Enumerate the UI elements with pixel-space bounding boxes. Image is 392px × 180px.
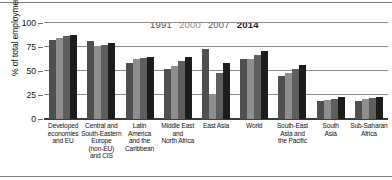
plot-area <box>44 23 388 119</box>
y-tick-mark-100 <box>38 23 43 24</box>
category-label-line: Africa <box>347 130 391 138</box>
bar-2000 <box>324 100 331 119</box>
bar-2000 <box>209 95 216 119</box>
category-label-line: North Africa <box>156 137 200 145</box>
y-tick-mark-25 <box>38 95 43 96</box>
bar-2007 <box>63 36 70 119</box>
bar-chart: % of total employment 1991200020072014 0… <box>0 0 392 180</box>
bar-1991 <box>49 40 56 119</box>
bar-1991 <box>202 49 209 119</box>
y-tick-label-0: 0 <box>12 115 36 123</box>
bar-2014 <box>299 65 306 119</box>
bar-2014 <box>147 57 154 119</box>
category-label-line: the Pacific <box>270 137 314 145</box>
bar-2007 <box>101 45 108 119</box>
bar-group <box>159 23 197 119</box>
bar-group <box>44 23 82 119</box>
category-label-line: Caribbean <box>117 145 161 153</box>
bar-2000 <box>133 59 140 119</box>
bar-1991 <box>164 69 171 119</box>
bar-group <box>273 23 311 119</box>
y-tick-mark-0 <box>38 119 43 120</box>
bar-1991 <box>87 41 94 119</box>
bar-2000 <box>285 73 292 119</box>
bar-2014 <box>338 97 345 119</box>
category-label: Sub-SaharanAfrica <box>347 122 391 137</box>
bar-2007 <box>216 73 223 119</box>
bar-2014 <box>108 43 115 119</box>
bar-2000 <box>171 66 178 119</box>
bar-1991 <box>126 63 133 119</box>
y-tick-label-75: 75 <box>12 43 36 51</box>
bar-groups <box>44 23 388 119</box>
bar-2000 <box>94 47 101 119</box>
bar-group <box>312 23 350 119</box>
bar-2014 <box>70 35 77 119</box>
bar-2000 <box>247 59 254 119</box>
bar-2014 <box>261 51 268 119</box>
bar-1991 <box>317 101 324 119</box>
bar-2014 <box>376 97 383 119</box>
bar-2007 <box>369 98 376 119</box>
bar-group <box>235 23 273 119</box>
bar-group <box>120 23 158 119</box>
y-tick-label-50: 50 <box>12 67 36 75</box>
bar-2014 <box>185 57 192 119</box>
category-label-line: and <box>156 130 200 138</box>
bar-2007 <box>254 55 261 119</box>
x-axis-category-labels: Developedeconomiesand EUCentral andSouth… <box>44 122 388 180</box>
bar-2007 <box>331 99 338 119</box>
y-tick-mark-75 <box>38 47 43 48</box>
bar-2007 <box>178 61 185 119</box>
x-axis-baseline <box>44 119 388 120</box>
bar-2000 <box>56 38 63 119</box>
bar-1991 <box>240 59 247 119</box>
y-tick-label-25: 25 <box>12 91 36 99</box>
bar-2000 <box>362 99 369 119</box>
bar-group <box>350 23 388 119</box>
bar-2007 <box>140 58 147 119</box>
bar-2007 <box>292 69 299 119</box>
bar-1991 <box>355 101 362 119</box>
bar-2014 <box>223 63 230 119</box>
top-divider <box>0 2 392 3</box>
y-tick-mark-50 <box>38 71 43 72</box>
y-tick-label-100: 100 <box>12 19 36 27</box>
bar-group <box>197 23 235 119</box>
category-label-line: Sub-Saharan <box>347 122 391 130</box>
bar-1991 <box>278 76 285 119</box>
bar-group <box>82 23 120 119</box>
category-label-line: and CIS <box>79 152 123 160</box>
